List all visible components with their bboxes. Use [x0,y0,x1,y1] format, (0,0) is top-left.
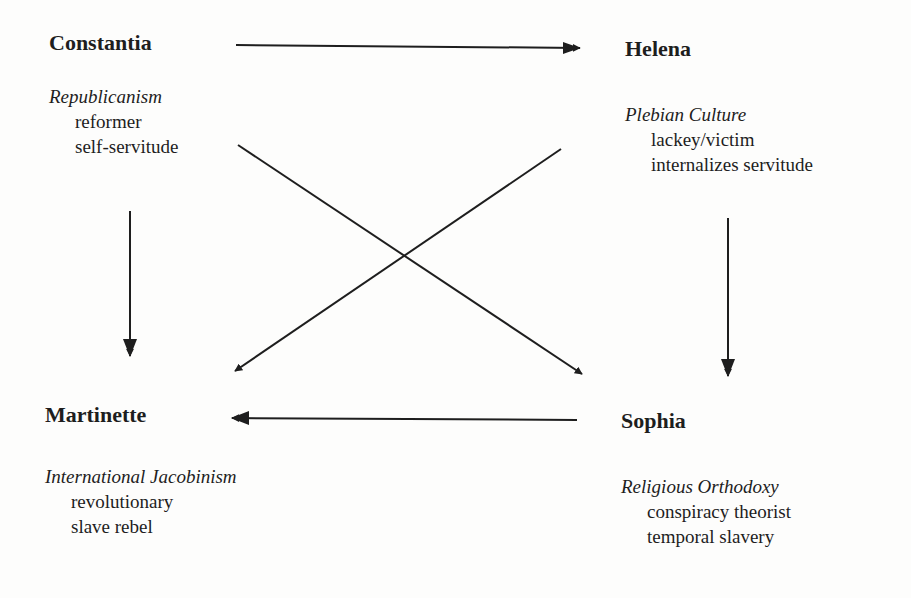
node-trait: lackey/victim [625,127,813,152]
node-trait: reformer [49,109,178,134]
node-name: Helena [625,36,813,62]
node-ideology: Religious Orthodoxy [621,474,791,499]
node-trait: conspiracy theorist [621,499,791,524]
node-trait: internalizes servitude [625,152,813,177]
node-ideology: International Jacobinism [45,464,237,489]
node-trait: slave rebel [45,514,237,539]
arrow-helena-to-martinette [235,149,561,371]
arrowhead-icon [563,42,580,54]
node-helena: Helena Plebian Culture lackey/victim int… [625,36,813,177]
arrowhead-icon [123,339,137,357]
node-trait: revolutionary [45,489,237,514]
node-name: Martinette [45,402,237,428]
node-name: Sophia [621,408,791,434]
node-sophia: Sophia Religious Orthodoxy conspiracy th… [621,408,791,549]
node-constantia: Constantia Republicanism reformer self-s… [49,30,178,159]
node-name: Constantia [49,30,178,56]
node-ideology: Plebian Culture [625,102,813,127]
arrow-constantia-to-helena [236,45,580,48]
node-ideology: Republicanism [49,84,178,109]
arrow-sophia-to-martinette [232,418,577,420]
arrow-constantia-to-sophia [238,145,582,374]
node-martinette: Martinette International Jacobinism revo… [45,402,237,539]
node-trait: self-servitude [49,134,178,159]
arrowhead-icon [721,359,735,377]
node-trait: temporal slavery [621,524,791,549]
